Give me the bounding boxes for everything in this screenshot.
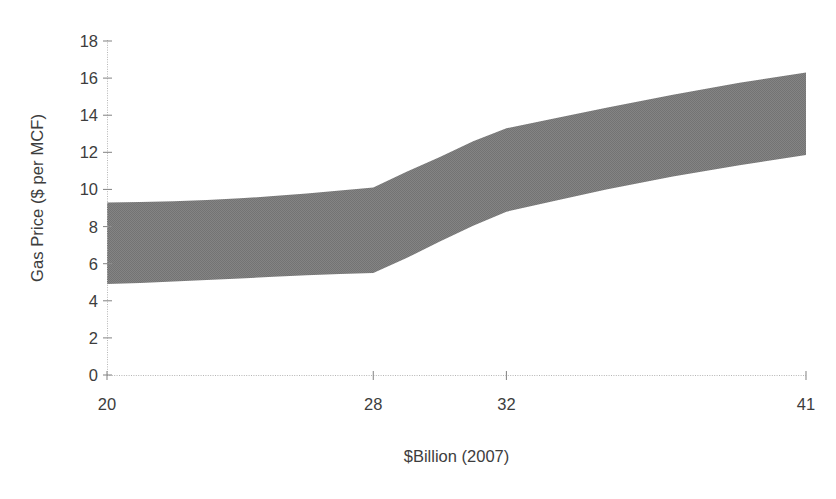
x-axis-tick-labels: 20283241 bbox=[0, 0, 836, 499]
gas-price-range-chart: 024681012141618 20283241 Gas Price ($ pe… bbox=[0, 0, 836, 499]
x-tick-label-20: 20 bbox=[98, 396, 116, 413]
x-tick-label-28: 28 bbox=[364, 396, 382, 413]
x-axis-title: $Billion (2007) bbox=[107, 447, 806, 466]
y-axis-title: Gas Price ($ per MCF) bbox=[22, 28, 52, 368]
x-tick-label-41: 41 bbox=[797, 396, 815, 413]
x-tick-label-32: 32 bbox=[497, 396, 515, 413]
